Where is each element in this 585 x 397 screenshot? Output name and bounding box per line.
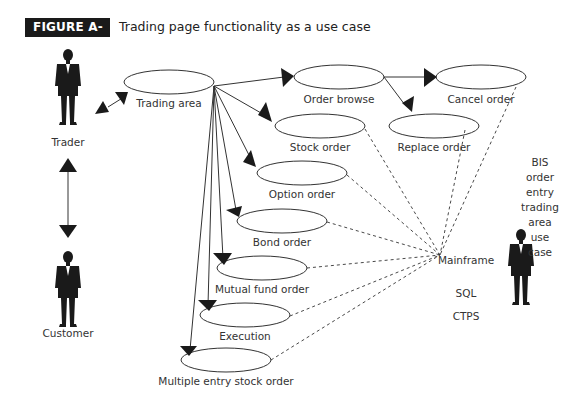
replace-order-label: Replace order [398, 141, 471, 153]
mutual-fund-order-ellipse [217, 256, 307, 280]
option-order-label: Option order [269, 188, 335, 200]
option-order-ellipse [257, 161, 347, 185]
cancel-order-label: Cancel order [448, 93, 515, 105]
stock-order-label: Stock order [290, 141, 350, 153]
sql-label: SQL [456, 287, 477, 299]
execution-label: Execution [219, 330, 271, 342]
use-case-note: BIS order entry trading area use case [518, 155, 563, 260]
trader-actor-icon [55, 49, 81, 125]
arrow-up-icon [59, 158, 77, 172]
mainframe-label: Mainframe [438, 254, 494, 266]
arrow-down-icon [59, 225, 77, 238]
customer-label: Customer [42, 327, 93, 339]
execution-ellipse [200, 303, 290, 327]
mutual-fund-order-label: Mutual fund order [215, 283, 309, 295]
ctps-label: CTPS [453, 310, 480, 322]
bond-order-label: Bond order [253, 236, 311, 248]
arrow-icon [95, 101, 109, 114]
replace-order-ellipse [389, 114, 479, 138]
cancel-order-ellipse [436, 65, 526, 89]
multiple-entry-stock-order-label: Multiple entry stock order [158, 375, 293, 387]
stock-order-ellipse [275, 114, 365, 138]
trading-area-ellipse [124, 70, 214, 94]
note-line-1: BIS order entry [518, 155, 563, 200]
note-line-2: trading area [518, 200, 563, 230]
customer-actor-icon [55, 251, 81, 327]
multiple-entry-stock-order-ellipse [181, 348, 271, 372]
bond-order-ellipse [237, 209, 327, 233]
note-line-3: use case [518, 230, 563, 260]
order-browse-ellipse [294, 65, 384, 89]
trader-label: Trader [51, 136, 84, 148]
arrow-icon [115, 92, 128, 105]
order-browse-label: Order browse [304, 93, 375, 105]
trading-area-label: Trading area [136, 97, 201, 109]
